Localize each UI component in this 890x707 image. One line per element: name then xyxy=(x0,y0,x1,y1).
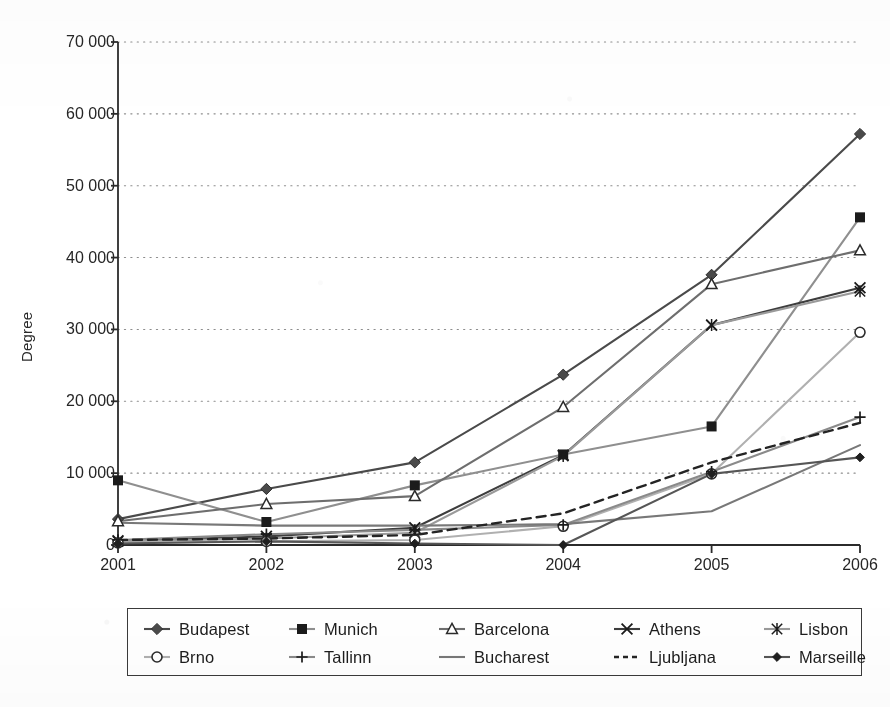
diamond-icon xyxy=(856,453,865,462)
legend-key-icon xyxy=(612,622,642,636)
data-point-marker xyxy=(113,475,123,485)
legend-item-label: Lisbon xyxy=(799,620,848,639)
legend-item-munich[interactable]: Munich xyxy=(287,620,437,639)
diamond-icon xyxy=(409,457,420,468)
legend-item-marseille[interactable]: Marseille xyxy=(762,648,890,667)
legend-item-label: Brno xyxy=(179,648,214,667)
triangle-icon xyxy=(855,245,866,255)
data-point-marker xyxy=(296,651,307,662)
data-point-marker xyxy=(558,369,569,380)
legend-item-label: Ljubljana xyxy=(649,648,716,667)
legend-key-icon xyxy=(762,622,792,636)
legend-key-icon xyxy=(762,650,792,664)
square-icon xyxy=(261,517,271,527)
square-icon xyxy=(410,480,420,490)
data-point-marker xyxy=(855,212,865,222)
legend-key-icon xyxy=(612,650,642,664)
diamond-icon xyxy=(151,623,162,634)
legend-item-athens[interactable]: Athens xyxy=(612,620,762,639)
legend-item-ljubljana[interactable]: Ljubljana xyxy=(612,648,762,667)
data-point-marker xyxy=(261,483,272,494)
plus-icon xyxy=(854,411,865,422)
legend-item-tallinn[interactable]: Tallinn xyxy=(287,648,437,667)
diamond-icon xyxy=(261,483,272,494)
chart-page: Degree 010 00020 00030 00040 00050 00060… xyxy=(0,0,890,707)
data-point-marker xyxy=(855,327,865,337)
square-icon xyxy=(297,624,307,634)
series-line-lisbon xyxy=(118,291,860,541)
legend-item-barcelona[interactable]: Barcelona xyxy=(437,620,612,639)
data-point-marker xyxy=(152,652,162,662)
plus-icon xyxy=(296,651,307,662)
legend-item-label: Munich xyxy=(324,620,378,639)
data-point-marker xyxy=(854,411,865,422)
square-icon xyxy=(707,421,717,431)
square-icon xyxy=(855,212,865,222)
legend-item-label: Marseille xyxy=(799,648,866,667)
legend-key-icon xyxy=(287,650,317,664)
legend-item-label: Barcelona xyxy=(474,620,549,639)
chart-plot-area xyxy=(0,0,890,600)
data-point-marker xyxy=(856,453,865,462)
data-point-marker xyxy=(410,480,420,490)
diamond-icon xyxy=(558,369,569,380)
series-line-barcelona xyxy=(118,250,860,521)
data-point-marker xyxy=(855,245,866,255)
circle-icon xyxy=(855,327,865,337)
chart-legend: BudapestMunichBarcelonaAthensLisbonBrnoT… xyxy=(127,608,862,676)
legend-key-icon xyxy=(437,622,467,636)
diamond-icon xyxy=(773,653,782,662)
data-point-marker xyxy=(707,421,717,431)
series-line-ljubljana xyxy=(118,423,860,540)
series-line-athens xyxy=(118,288,860,541)
data-point-marker xyxy=(773,653,782,662)
legend-key-icon xyxy=(287,622,317,636)
data-point-marker xyxy=(409,457,420,468)
legend-key-icon xyxy=(437,650,467,664)
square-icon xyxy=(113,475,123,485)
data-point-marker xyxy=(297,624,307,634)
series-line-munich xyxy=(118,217,860,522)
circle-icon xyxy=(152,652,162,662)
series-line-tallinn xyxy=(118,417,860,540)
legend-key-icon xyxy=(142,650,172,664)
legend-item-lisbon[interactable]: Lisbon xyxy=(762,620,890,639)
diamond-icon xyxy=(559,541,568,550)
data-point-marker xyxy=(559,541,568,550)
legend-item-label: Bucharest xyxy=(474,648,549,667)
legend-key-icon xyxy=(142,622,172,636)
legend-item-label: Budapest xyxy=(179,620,250,639)
legend-item-budapest[interactable]: Budapest xyxy=(142,620,287,639)
data-point-marker xyxy=(151,623,162,634)
legend-item-bucharest[interactable]: Bucharest xyxy=(437,648,612,667)
line-chart: Degree 010 00020 00030 00040 00050 00060… xyxy=(0,0,890,600)
legend-item-label: Tallinn xyxy=(324,648,371,667)
data-point-marker xyxy=(261,517,271,527)
legend-item-brno[interactable]: Brno xyxy=(142,648,287,667)
legend-item-label: Athens xyxy=(649,620,701,639)
series-line-budapest xyxy=(118,134,860,519)
